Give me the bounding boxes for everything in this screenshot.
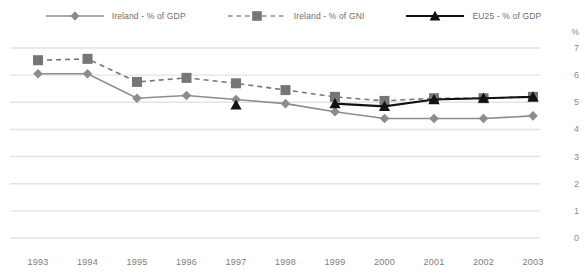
x-axis-tick-label: 1993 [28, 257, 49, 267]
x-axis-tick-label: 2001 [424, 257, 445, 267]
y-axis-tick-label: 4 [565, 124, 579, 134]
data-point-marker[interactable] [528, 111, 538, 121]
data-point-marker[interactable] [380, 114, 390, 124]
data-point-marker[interactable] [429, 114, 439, 124]
data-point-marker[interactable] [330, 107, 340, 117]
data-point-marker[interactable] [83, 69, 93, 79]
x-axis-tick-label: 2003 [523, 257, 544, 267]
x-axis-tick-label: 1998 [275, 257, 296, 267]
y-axis-tick-label: 2 [565, 179, 579, 189]
data-point-marker[interactable] [281, 99, 291, 109]
x-axis-tick-label: 1994 [77, 257, 98, 267]
y-axis-tick-label: 3 [565, 152, 579, 162]
data-point-marker[interactable] [83, 54, 93, 64]
data-point-marker[interactable] [479, 114, 489, 124]
data-point-marker[interactable] [182, 73, 192, 83]
data-point-marker[interactable] [182, 91, 192, 101]
series-line [38, 74, 533, 119]
y-axis-tick-label: 5 [565, 97, 579, 107]
x-axis-tick-label: 1995 [127, 257, 148, 267]
x-axis-tick-label: 2000 [374, 257, 395, 267]
x-axis-tick-label: 1996 [176, 257, 197, 267]
plot-area [0, 0, 585, 275]
x-axis-tick-label: 2002 [473, 257, 494, 267]
data-point-marker[interactable] [231, 78, 241, 88]
y-axis-tick-label: 6 [565, 70, 579, 80]
data-point-marker[interactable] [132, 93, 142, 103]
x-axis-tick-label: 1997 [226, 257, 247, 267]
chart-container: Ireland - % of GDP Ireland - % of GNI EU… [0, 0, 585, 275]
data-point-marker[interactable] [33, 69, 43, 79]
data-point-marker[interactable] [230, 99, 241, 109]
data-point-marker[interactable] [33, 55, 43, 65]
y-axis-tick-label: 1 [565, 206, 579, 216]
y-axis-tick-label: 7 [565, 43, 579, 53]
y-axis-tick-label: 0 [565, 233, 579, 243]
data-point-marker[interactable] [281, 85, 291, 95]
data-point-marker[interactable] [132, 77, 142, 87]
x-axis-tick-label: 1999 [325, 257, 346, 267]
